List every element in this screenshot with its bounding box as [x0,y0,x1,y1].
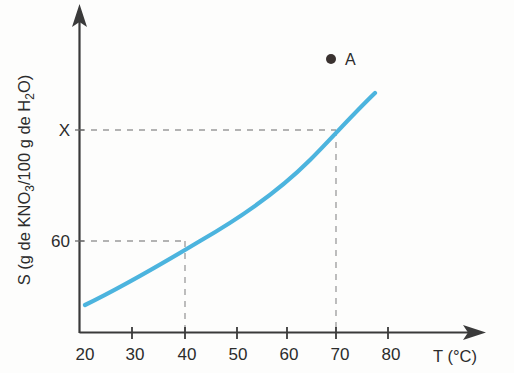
temperature-axis [80,325,487,340]
x-tick-label-40: 40 [178,345,197,364]
y-axis-title: S (g de KNO3/100 g de H2O) [15,75,37,286]
x-axis-title: T (°C) [433,347,477,365]
x-tick-label-50: 50 [229,345,248,364]
y-axis-title-lead: S (g de KNO [15,192,33,286]
chart-figure: A X 60 20 30 40 50 60 70 80 T (°C) S (g … [0,0,514,373]
y-axis-title-tail: O) [15,75,33,93]
solubility-curve [85,93,375,305]
y-tick-labels: X 60 [51,121,70,251]
y-tick-label-x: X [59,121,70,140]
x-tick-label-80: 80 [382,345,401,364]
x-tick-label-60: 60 [280,345,299,364]
y-axis-title-mid: /100 g de H [15,100,33,185]
solubility-axis [72,4,87,333]
solubility-chart-svg: A X 60 20 30 40 50 60 70 80 T (°C) S (g … [0,0,514,373]
svg-text:S (g de KNO3/100 g de H2O): S (g de KNO3/100 g de H2O) [15,75,37,286]
x-tick-label-20: 20 [76,345,95,364]
point-a-marker [326,54,336,64]
solubility-curve-group [85,93,375,305]
x-tick-label-30: 30 [126,345,145,364]
point-a-label: A [345,51,356,68]
y-tick-label-60: 60 [51,232,70,251]
x-tick-label-70: 70 [331,345,350,364]
guide-lines [79,130,336,333]
point-a-annotation: A [326,51,356,68]
x-tick-labels: 20 30 40 50 60 70 80 [76,345,401,364]
